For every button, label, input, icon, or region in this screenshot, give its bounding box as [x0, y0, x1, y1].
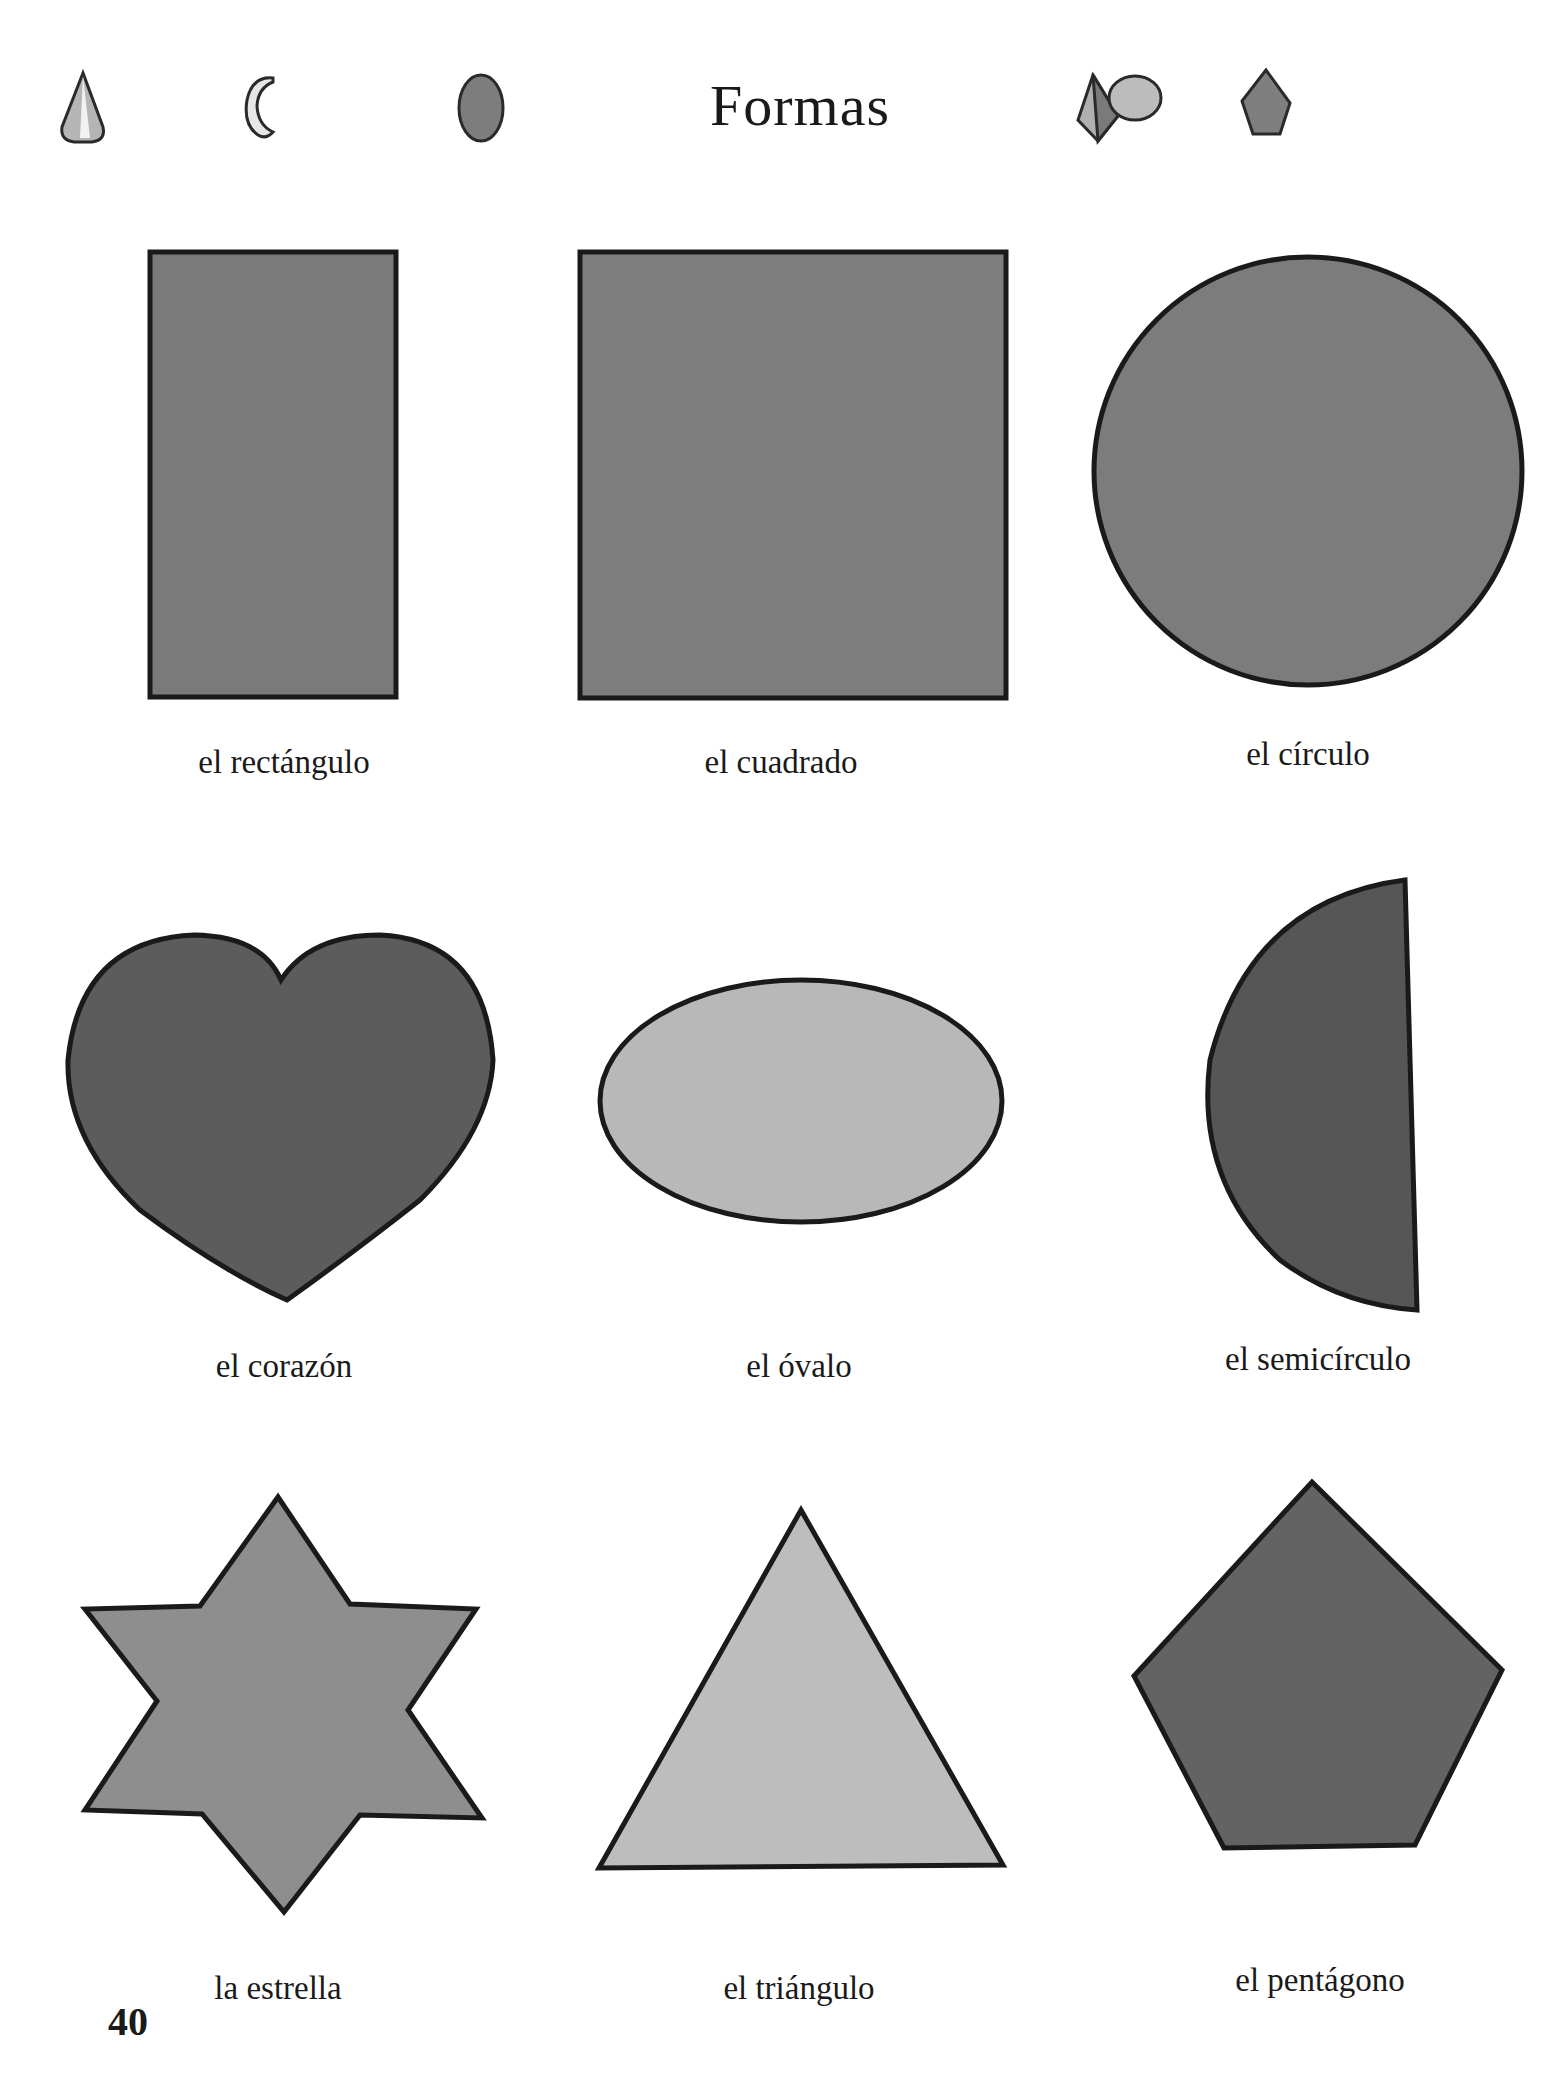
shape-label-semicircle: el semicírculo — [1225, 1341, 1411, 1378]
pentagon-icon — [1242, 70, 1290, 134]
shape-label-triangle: el triángulo — [723, 1970, 874, 2007]
shape-label-square: el cuadrado — [705, 744, 858, 781]
shape-label-circle: el círculo — [1246, 736, 1370, 773]
shape-label-rectangle: el rectángulo — [198, 744, 369, 781]
page-number: 40 — [108, 1998, 148, 2045]
heart-shape — [68, 935, 493, 1300]
shape-label-star: la estrella — [214, 1970, 341, 2007]
circle-icon — [459, 75, 503, 141]
pentagon-shape — [1134, 1482, 1502, 1848]
star-shape — [85, 1497, 482, 1912]
crescent-moon-icon — [246, 78, 273, 137]
shape-label-heart: el corazón — [216, 1348, 353, 1385]
triangle-shape — [599, 1510, 1003, 1868]
rectangle-shape — [150, 252, 396, 697]
shapes-illustration — [0, 0, 1562, 2089]
semicircle-shape — [1208, 880, 1417, 1310]
shape-label-oval: el óvalo — [746, 1348, 851, 1385]
oval-shape — [600, 980, 1002, 1222]
cone-icon — [62, 73, 104, 142]
circle-shape — [1094, 257, 1522, 685]
shape-label-pentagon: el pentágono — [1235, 1962, 1405, 1999]
square-shape — [580, 252, 1006, 698]
ellipse-icon — [1109, 76, 1161, 120]
